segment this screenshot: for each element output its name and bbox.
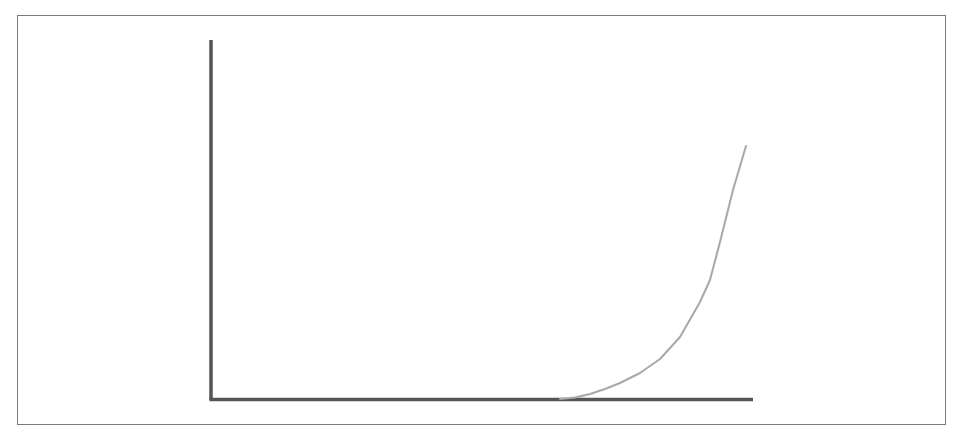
growth-curve	[560, 146, 746, 399]
plot-area	[0, 0, 958, 436]
